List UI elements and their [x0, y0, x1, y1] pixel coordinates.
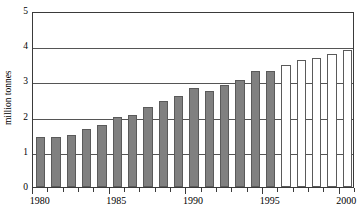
- bars-layer: [33, 13, 353, 187]
- x-axis-tick: [354, 188, 355, 192]
- bar-1981: [51, 137, 61, 187]
- bar-1993: [235, 80, 245, 187]
- bar-1992: [220, 85, 230, 187]
- x-axis-tick: [339, 188, 340, 194]
- plot-area: [32, 12, 354, 188]
- bar-1989: [174, 96, 184, 187]
- bar-1982: [67, 135, 77, 187]
- x-axis-tick: [109, 188, 110, 194]
- bar-1996: [281, 65, 291, 187]
- x-axis-tick-label: 1995: [260, 195, 280, 207]
- x-axis-tick: [93, 188, 94, 192]
- y-axis-tick-label: 3: [23, 78, 28, 88]
- x-axis-tick: [32, 188, 33, 194]
- y-axis-tick-label: 4: [23, 42, 28, 52]
- y-axis-tick-label: 0: [23, 183, 28, 193]
- x-axis-tick: [231, 188, 232, 192]
- x-axis-tick: [124, 188, 125, 192]
- x-axis-tick: [262, 188, 263, 194]
- x-axis-tick: [185, 188, 186, 194]
- bar-1994: [251, 71, 261, 188]
- bar-1990: [189, 88, 199, 187]
- y-axis-tick-label: 2: [23, 113, 28, 123]
- x-axis-tick: [216, 188, 217, 192]
- y-axis-tick-label: 1: [23, 148, 28, 158]
- x-axis-tick-label: 1990: [183, 195, 203, 207]
- bar-1984: [97, 125, 107, 187]
- x-axis-tick: [201, 188, 202, 192]
- x-axis-tick: [78, 188, 79, 192]
- x-axis-tick: [247, 188, 248, 192]
- bar-1999: [327, 54, 337, 187]
- bar-1986: [128, 115, 138, 187]
- bar-1991: [205, 91, 215, 187]
- x-axis-ticks: [32, 188, 354, 194]
- bar-1987: [143, 107, 153, 187]
- bar-1997: [297, 60, 307, 187]
- x-axis-tick-labels: 19801985199019952000: [32, 195, 354, 211]
- x-axis-tick-label: 1980: [30, 195, 50, 207]
- bar-1983: [82, 129, 92, 187]
- bar-1980: [36, 137, 46, 187]
- y-axis-tick-label: 5: [23, 7, 28, 17]
- x-axis-tick: [155, 188, 156, 192]
- x-axis-tick: [139, 188, 140, 192]
- y-axis-tick-labels: 543210: [14, 12, 30, 188]
- bar-1995: [266, 71, 276, 188]
- x-axis-tick-label: 2000: [336, 195, 356, 207]
- x-axis-tick: [293, 188, 294, 192]
- x-axis-tick-label: 1985: [106, 195, 126, 207]
- x-axis-tick: [63, 188, 64, 192]
- x-axis-tick: [277, 188, 278, 192]
- bar-2000: [343, 50, 353, 187]
- bar-1988: [159, 101, 169, 187]
- x-axis-tick: [47, 188, 48, 192]
- bar-chart: million tonnes 543210 198019851990199520…: [0, 0, 363, 220]
- x-axis-tick: [308, 188, 309, 192]
- y-axis-title-label: million tonnes: [3, 71, 13, 126]
- bar-1985: [113, 117, 123, 187]
- x-axis-tick: [170, 188, 171, 192]
- x-axis-tick: [323, 188, 324, 192]
- bar-1998: [312, 58, 322, 187]
